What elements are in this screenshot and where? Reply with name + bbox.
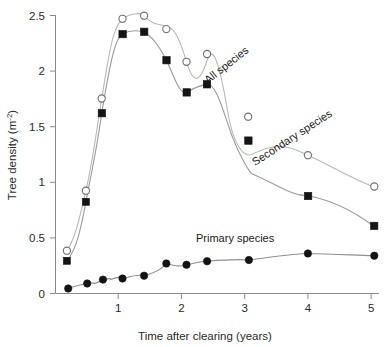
series-markers-primary-species	[65, 250, 378, 292]
x-tick-label: 5	[368, 302, 374, 314]
x-axis-tick-labels: 1 2 3 4 5	[115, 302, 374, 314]
y-tick-label: 2.5	[29, 10, 45, 22]
x-tick-label: 1	[115, 302, 121, 314]
y-tick-label: 1	[39, 176, 45, 188]
x-axis-title: Time after clearing (years)	[138, 330, 272, 342]
annotation-all-species: All species	[202, 43, 251, 85]
y-axis-title-close: )	[6, 110, 18, 114]
annotation-secondary-species: Secondary species	[250, 107, 335, 168]
y-tick-label: 0.5	[29, 232, 45, 244]
x-tick-label: 4	[305, 302, 312, 314]
x-tick-label: 2	[178, 302, 184, 314]
x-tick-label: 3	[241, 302, 247, 314]
y-axis-ticks	[50, 16, 56, 294]
svg-text:Tree density (m-2): Tree density (m-2)	[5, 110, 18, 201]
y-tick-label: 0	[39, 288, 45, 300]
curve-primary-species	[68, 254, 373, 289]
curve-all-species	[67, 14, 373, 251]
y-axis-title-main: Tree density (m	[6, 121, 18, 200]
y-tick-label: 1.5	[29, 121, 45, 133]
chart-page: 0 0.5 1 1.5 2 2.5 1 2 3 4 5 Time after c…	[0, 0, 389, 347]
y-axis-tick-labels: 0 0.5 1 1.5 2 2.5	[29, 10, 45, 300]
x-axis-ticks	[118, 294, 371, 300]
y-tick-label: 2	[39, 65, 45, 77]
tree-density-chart: 0 0.5 1 1.5 2 2.5 1 2 3 4 5 Time after c…	[0, 0, 389, 347]
annotation-primary-species: Primary species	[196, 232, 275, 244]
y-axis-title: Tree density (m-2)	[5, 110, 18, 201]
